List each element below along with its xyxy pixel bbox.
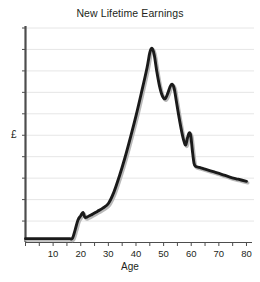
series-line-new-lifetime-earnings <box>26 48 247 239</box>
chart-plot: 1020304050607080 <box>0 0 260 282</box>
x-axis-title: Age <box>0 261 260 272</box>
x-axis-tick-label: 40 <box>131 248 142 259</box>
series-line-shadow <box>27 50 248 241</box>
x-axis-tick-label: 60 <box>186 248 197 259</box>
x-axis-tick-label: 70 <box>214 248 225 259</box>
x-axis-tick-label: 80 <box>241 248 252 259</box>
gridlines-group <box>26 28 255 221</box>
y-axis-title: £ <box>11 129 17 140</box>
x-axis-tick-label: 20 <box>75 248 86 259</box>
x-axis-tick-label: 50 <box>158 248 169 259</box>
x-axis-tick-label: 30 <box>103 248 114 259</box>
chart-container: New Lifetime Earnings 1020304050607080 £… <box>0 0 260 282</box>
x-axis-tick-labels-group: 1020304050607080 <box>48 248 252 259</box>
x-axis-tick-label: 10 <box>48 248 59 259</box>
